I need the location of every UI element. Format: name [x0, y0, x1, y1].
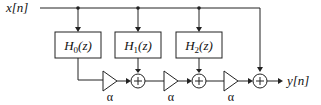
filter-h2: H2(z) [176, 32, 222, 58]
svg-text:α: α [168, 90, 175, 104]
svg-text:α: α [228, 90, 235, 104]
arrow-icon [257, 67, 263, 72]
gain-amp-2: α [164, 71, 178, 104]
adder-2 [192, 74, 206, 88]
arrow-icon [135, 27, 141, 32]
svg-text:H0(z): H0(z) [63, 38, 92, 55]
output-label: y[n] [285, 73, 309, 88]
gain-amp-1: α [103, 71, 117, 104]
filter-h0: H0(z) [55, 32, 101, 58]
svg-text:α: α [107, 90, 114, 104]
arrow-icon [126, 78, 131, 84]
svg-text:H1(z): H1(z) [123, 38, 152, 55]
arrow-icon [278, 78, 283, 84]
arrow-icon [75, 27, 81, 32]
arrow-icon [196, 69, 202, 73]
arrow-icon [196, 27, 202, 32]
input-label: x[n] [5, 0, 28, 15]
svg-text:H2(z): H2(z) [184, 38, 213, 55]
gain-amp-3: α [224, 71, 238, 104]
filter-h1: H1(z) [115, 32, 161, 58]
filter-cascade-diagram: x[n] H0(z) H1(z) H2(z) α [0, 0, 321, 105]
arrow-icon [248, 78, 253, 84]
arrow-icon [135, 69, 141, 73]
arrow-icon [187, 78, 192, 84]
adder-1 [131, 74, 145, 88]
adder-3 [253, 74, 267, 88]
